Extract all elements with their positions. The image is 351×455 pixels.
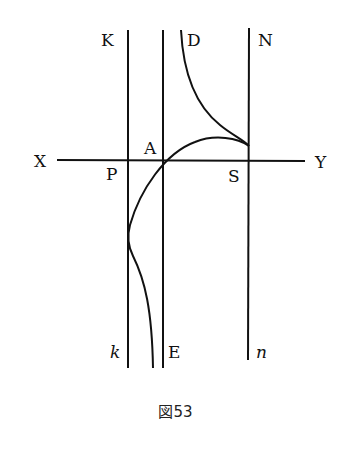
label-d: D (187, 30, 201, 50)
label-x: X (34, 151, 47, 171)
label-k-lower: k (110, 342, 120, 362)
diagram-figure: K D N A X Y P S k E n (0, 0, 351, 455)
label-s: S (228, 166, 240, 186)
label-y: Y (314, 152, 327, 172)
label-n-upper: N (258, 30, 273, 50)
label-p: P (106, 164, 117, 184)
label-k-upper: K (101, 30, 114, 50)
label-a: A (143, 138, 157, 158)
line-nn (248, 28, 249, 360)
label-e: E (168, 342, 180, 362)
axis-xy (57, 160, 305, 161)
label-n-lower: n (256, 342, 267, 362)
figure-caption: 図53 (0, 400, 351, 421)
